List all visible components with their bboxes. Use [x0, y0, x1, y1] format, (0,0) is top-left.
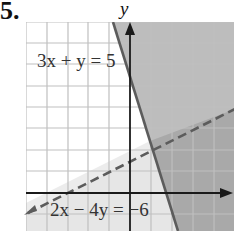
equation-label-dashed: 2x − 4y = −6: [50, 199, 149, 221]
inequality-graph: [0, 0, 234, 231]
equation-label-solid: 3x + y = 5: [37, 50, 115, 72]
